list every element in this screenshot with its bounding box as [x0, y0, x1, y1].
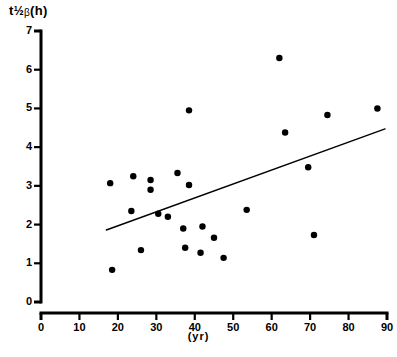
x-tick-label: 50 — [223, 322, 243, 333]
data-point — [324, 112, 330, 118]
data-point — [165, 214, 171, 220]
data-point — [147, 177, 153, 183]
plot-canvas — [0, 0, 397, 357]
data-point — [282, 129, 288, 135]
data-point — [182, 245, 188, 251]
x-axis — [40, 313, 389, 320]
data-point — [186, 182, 192, 188]
data-point — [138, 247, 144, 253]
data-point — [197, 250, 203, 256]
y-tick-label: 0 — [18, 296, 32, 307]
data-point — [180, 225, 186, 231]
data-point — [186, 107, 192, 113]
y-tick-label: 5 — [18, 102, 32, 113]
x-tick-label: 20 — [108, 322, 128, 333]
data-point — [276, 55, 282, 61]
x-tick-label: 40 — [185, 322, 205, 333]
data-point — [305, 164, 311, 170]
y-axis — [34, 30, 41, 304]
x-tick-label: 30 — [146, 322, 166, 333]
x-tick-label: 10 — [69, 322, 89, 333]
y-tick-label: 7 — [18, 25, 32, 36]
data-point — [374, 105, 380, 111]
data-point — [109, 267, 115, 273]
x-tick-label: 70 — [300, 322, 320, 333]
data-point — [155, 211, 161, 217]
data-points — [107, 55, 381, 273]
x-tick-label: 80 — [339, 322, 359, 333]
y-tick-label: 6 — [18, 64, 32, 75]
x-tick-label: 90 — [377, 322, 397, 333]
y-tick-label: 3 — [18, 180, 32, 191]
scatter-plot-figure: t½β(h) (yr) 012345670102030405060708090 — [0, 0, 397, 357]
data-point — [220, 255, 226, 261]
x-tick-label: 60 — [262, 322, 282, 333]
data-point — [174, 170, 180, 176]
x-tick-label: 0 — [31, 322, 51, 333]
data-point — [199, 223, 205, 229]
y-tick-label: 2 — [18, 219, 32, 230]
data-point — [107, 180, 113, 186]
data-point — [211, 235, 217, 241]
data-point — [128, 208, 134, 214]
data-point — [243, 207, 249, 213]
data-point — [147, 187, 153, 193]
data-point — [311, 232, 317, 238]
y-tick-label: 4 — [18, 141, 32, 152]
y-tick-label: 1 — [18, 257, 32, 268]
data-point — [130, 173, 136, 179]
